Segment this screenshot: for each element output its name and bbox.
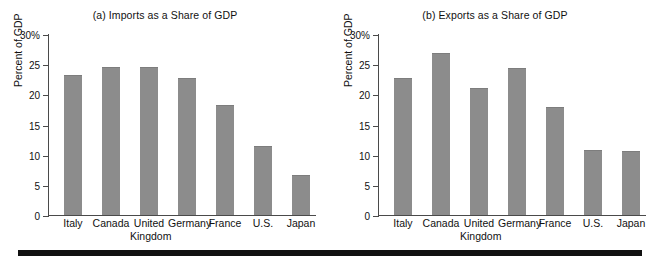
bar-united-kingdom [470, 88, 488, 215]
y-tick-label: 0 [364, 211, 370, 222]
bar-slot: Italy [384, 34, 422, 215]
chart-title-b: (b) Exports as a Share of GDP [330, 9, 660, 21]
y-tick-mark [43, 216, 48, 217]
chart-title-a: (a) Imports as a Share of GDP [0, 9, 330, 21]
bar-slot: Germany [168, 34, 206, 215]
bar-united-kingdom [140, 67, 158, 215]
bar-canada [102, 67, 120, 215]
bar-france [546, 107, 564, 215]
bar-slot: Japan [612, 34, 650, 215]
bar-italy [64, 75, 82, 215]
bar-france [216, 105, 234, 215]
plot-area-a: 051015202530% ItalyCanadaUnitedKingdomGe… [48, 35, 316, 216]
x-tick-label: Japan [612, 217, 650, 229]
y-tick-label: 10 [29, 150, 40, 161]
x-tick-label-line2: Kingdom [460, 230, 498, 242]
x-tick-label: Germany [498, 217, 536, 229]
x-tick-label: Germany [168, 217, 206, 229]
x-tick-label: United [130, 217, 168, 229]
bar-canada [432, 53, 450, 215]
bar-japan [292, 175, 310, 215]
y-tick-label: 20 [359, 90, 370, 101]
bar-slot: Germany [498, 34, 536, 215]
chart-panel-a: (a) Imports as a Share of GDP Percent of… [0, 0, 330, 245]
chart-panels: (a) Imports as a Share of GDP Percent of… [0, 0, 660, 245]
y-tick-label: 30% [350, 30, 370, 41]
x-tick-label: Italy [384, 217, 422, 229]
bar-slot: France [206, 34, 244, 215]
bar-u-s- [254, 146, 272, 215]
y-tick-label: 30% [20, 30, 40, 41]
bar-germany [178, 78, 196, 215]
y-tick-label: 25 [29, 60, 40, 71]
figure: (a) Imports as a Share of GDP Percent of… [0, 0, 660, 266]
y-tick-label: 5 [34, 180, 40, 191]
chart-panel-b: (b) Exports as a Share of GDP Percent of… [330, 0, 660, 245]
x-tick-label: U.S. [574, 217, 612, 229]
x-tick-label: U.S. [244, 217, 282, 229]
plot-area-b: 051015202530% ItalyCanadaUnitedKingdomGe… [378, 35, 646, 216]
bar-slot: Canada [422, 34, 460, 215]
bar-slot: France [536, 34, 574, 215]
bar-slot: U.S. [244, 34, 282, 215]
y-axis-label-holder-a: Percent of GDP [14, 35, 28, 216]
bar-slot: UnitedKingdom [130, 34, 168, 215]
y-tick-label: 15 [359, 120, 370, 131]
bar-japan [622, 151, 640, 215]
bar-slot: Canada [92, 34, 130, 215]
x-tick-label: Italy [54, 217, 92, 229]
x-tick-label: France [206, 217, 244, 229]
y-axis-label-a: Percent of GDP [12, 13, 24, 87]
bar-germany [508, 68, 526, 215]
x-axis-line-b [378, 215, 646, 216]
bar-u-s- [584, 150, 602, 215]
y-tick-label: 25 [359, 60, 370, 71]
x-tick-label: United [460, 217, 498, 229]
y-tick-label: 10 [359, 150, 370, 161]
x-tick-label: Canada [92, 217, 130, 229]
y-axis-label-holder-b: Percent of GDP [344, 35, 358, 216]
bar-slot: U.S. [574, 34, 612, 215]
bar-slot: UnitedKingdom [460, 34, 498, 215]
y-tick-label: 15 [29, 120, 40, 131]
x-tick-label: Japan [282, 217, 320, 229]
x-tick-label-line2: Kingdom [130, 230, 168, 242]
y-tick-label: 5 [364, 180, 370, 191]
y-tick-label: 0 [34, 211, 40, 222]
y-tick-label: 20 [29, 90, 40, 101]
bars-a: ItalyCanadaUnitedKingdomGermanyFranceU.S… [48, 34, 316, 215]
bar-italy [394, 78, 412, 215]
x-tick-label: France [536, 217, 574, 229]
bar-slot: Japan [282, 34, 320, 215]
y-tick-mark [373, 216, 378, 217]
x-tick-label: Canada [422, 217, 460, 229]
y-axis-label-b: Percent of GDP [342, 13, 354, 87]
bottom-rule [18, 250, 642, 256]
bars-b: ItalyCanadaUnitedKingdomGermanyFranceU.S… [378, 34, 646, 215]
bar-slot: Italy [54, 34, 92, 215]
x-axis-line-a [48, 215, 316, 216]
